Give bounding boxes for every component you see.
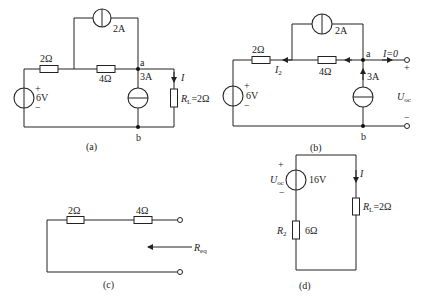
circuit-diagrams: 2A 2Ω 4Ω a 3A b + 6V − I RL=2Ω (a) [0,0,426,303]
circuit-d: + Uoc − 16V I RL=2Ω R2 6Ω (d) [270,155,391,292]
voltage-source-16v [286,170,306,190]
label-4ohm: 4Ω [136,205,148,216]
resistor-4ohm [318,57,336,64]
caption-b: (b) [310,142,322,154]
label-current-i: I [359,168,364,179]
current-source-2a [93,9,111,27]
load-resistor [353,198,360,215]
caption-a: (a) [86,141,97,153]
terminal-minus [405,124,410,129]
caption-d: (d) [299,280,311,292]
label-6ohm: 6Ω [305,225,317,236]
label-4ohm: 4Ω [99,73,111,84]
label-2a: 2A [113,23,126,34]
node-b [136,125,140,129]
label-term-plus: + [404,62,410,73]
current-source-3a [353,87,373,107]
label-16v: 16V [309,174,327,185]
resistor-2ohm [252,57,270,64]
resistor-4ohm [97,66,115,73]
resistor-4ohm [134,217,152,224]
resistor-2ohm [67,217,84,224]
label-term-minus: − [404,112,410,123]
label-minus: − [279,187,285,198]
label-2ohm: 2Ω [40,53,52,64]
label-2ohm: 2Ω [252,44,264,55]
label-node-b: b [361,131,366,142]
voltage-source-6v [223,86,243,106]
label-req: Req [193,242,207,255]
label-2a: 2A [335,25,348,36]
label-load: RL=2Ω [180,93,209,106]
caption-c: (c) [103,279,114,291]
terminal-bottom [178,270,183,275]
label-i-zero: I=0 [382,48,398,59]
label-uoc: Uoc [270,174,284,187]
label-3a: 3A [367,71,380,82]
label-i2: I2 [274,64,282,77]
load-resistor [171,89,178,107]
label-minus: − [35,102,41,113]
node-b [361,124,365,128]
label-uoc: Uoc [397,91,411,104]
circuit-b: 2A 2Ω 4Ω a I=0 3A b + 6V − I2 + Uoc − (b… [223,14,411,154]
circuit-c: 2Ω 4Ω Req (c) [47,205,207,291]
label-load: RL=2Ω [362,201,391,214]
terminal-top [178,218,183,223]
label-current-i: I [180,72,185,83]
label-node-a: a [366,48,371,59]
current-source-2a [312,14,332,34]
label-plus: + [278,159,284,170]
label-4ohm: 4Ω [319,66,331,77]
label-r2: R2 [276,225,287,238]
resistor-2ohm [40,66,58,73]
label-2ohm: 2Ω [68,205,80,216]
label-3a: 3A [140,71,153,82]
node-a [361,58,365,62]
label-minus: − [244,100,250,111]
current-source-3a [128,88,148,108]
resistor-r2 [293,221,300,239]
voltage-source-6v [14,88,34,108]
label-node-a: a [140,57,145,68]
label-node-b: b [136,132,141,143]
circuit-a: 2A 2Ω 4Ω a 3A b + 6V − I RL=2Ω (a) [14,9,209,153]
